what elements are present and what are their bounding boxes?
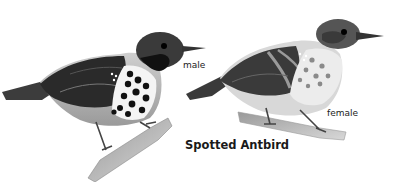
bird-illustrations (0, 0, 418, 182)
illustration: male female Spotted Antbird (0, 0, 418, 182)
female-bird (186, 19, 384, 140)
species-title: Spotted Antbird (185, 138, 289, 152)
male-bird (2, 32, 206, 182)
male-label: male (183, 60, 205, 70)
female-label: female (327, 108, 358, 118)
